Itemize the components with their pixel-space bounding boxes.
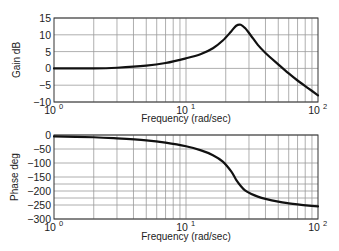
y-tick-label: 0 [45, 62, 51, 74]
x-tick-exponent: 2 [323, 219, 327, 228]
y-tick-label: 5 [45, 46, 51, 58]
x-tick-label: 10 [44, 221, 56, 233]
x-axis-label: Frequency (rad/sec) [141, 231, 230, 242]
y-tick-label: −50 [33, 143, 51, 155]
phase-panel: 0−50−100−150−200−250−300100101102Frequen… [9, 129, 327, 242]
y-axis-label: Phase deg [9, 153, 20, 201]
y-tick-label: −5 [39, 79, 51, 91]
y-tick-label: −150 [27, 171, 51, 183]
y-tick-label: 0 [45, 129, 51, 141]
bode-plot: 151050−5−10100101102Frequency (rad/sec)G… [0, 0, 339, 251]
y-tick-label: 15 [39, 12, 51, 24]
x-tick-exponent: 1 [191, 102, 195, 111]
y-axis-label: Gain dB [11, 42, 22, 78]
x-tick-exponent: 2 [323, 102, 327, 111]
x-tick-label: 10 [44, 104, 56, 116]
x-tick-exponent: 0 [59, 102, 63, 111]
x-tick-label: 10 [308, 221, 320, 233]
y-tick-label: 10 [39, 29, 51, 41]
x-tick-exponent: 0 [59, 219, 63, 228]
gain-panel: 151050−5−10100101102Frequency (rad/sec)G… [11, 12, 327, 124]
y-tick-label: −100 [27, 157, 51, 169]
y-tick-label: −200 [27, 185, 51, 197]
x-tick-label: 10 [308, 104, 320, 116]
x-tick-exponent: 1 [191, 219, 195, 228]
x-axis-label: Frequency (rad/sec) [141, 113, 230, 124]
y-tick-label: −250 [27, 199, 51, 211]
